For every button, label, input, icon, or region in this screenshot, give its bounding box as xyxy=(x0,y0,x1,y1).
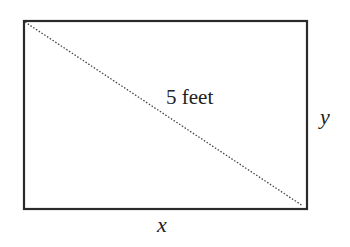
rectangle-diagram: 5 feet y x xyxy=(0,0,350,247)
diagonal-label: 5 feet xyxy=(166,85,213,109)
diagonal-line xyxy=(25,22,303,206)
width-label: x xyxy=(156,212,167,237)
height-label: y xyxy=(318,104,330,129)
